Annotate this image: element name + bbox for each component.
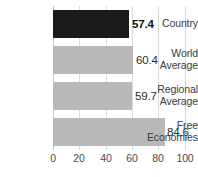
bar-chart: Country World Average Regional Average F… bbox=[0, 0, 198, 177]
value-label-regional-average: 59.7 bbox=[135, 90, 157, 102]
x-tick-80: 80 bbox=[152, 152, 163, 164]
bar-country[interactable] bbox=[53, 10, 129, 38]
x-tick-60: 60 bbox=[126, 152, 137, 164]
value-label-world-average: 60.4 bbox=[136, 54, 158, 66]
x-tick-0: 0 bbox=[50, 152, 56, 164]
value-label-country: 57.4 bbox=[132, 18, 154, 30]
x-tick-40: 40 bbox=[100, 152, 111, 164]
x-tick-100: 100 bbox=[177, 152, 194, 164]
bar-world-average[interactable] bbox=[53, 46, 133, 74]
value-label-free-economies: 84.6 bbox=[167, 126, 189, 138]
x-tick-20: 20 bbox=[73, 152, 84, 164]
bar-regional-average[interactable] bbox=[53, 82, 132, 110]
x-axis-ticks: 0 20 40 60 80 100 bbox=[0, 152, 198, 170]
